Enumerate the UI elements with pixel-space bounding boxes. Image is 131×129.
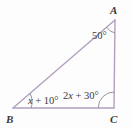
angle-arc-C	[98, 92, 114, 108]
vertex-label-a: A	[110, 5, 117, 16]
angle-arc-A	[107, 27, 116, 33]
angle-label-b: x + 10°	[28, 96, 59, 107]
triangle-diagram: A B C 50° x + 10° 2x + 30°	[0, 0, 131, 129]
vertex-label-b: B	[6, 114, 13, 125]
angle-label-c: 2x + 30°	[63, 91, 99, 102]
vertex-label-c: C	[110, 114, 117, 125]
angle-label-a: 50°	[92, 31, 107, 42]
triangle-svg	[0, 0, 131, 129]
